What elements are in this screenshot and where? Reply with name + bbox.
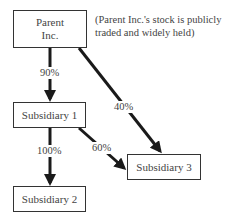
- ownership-note: (Parent Inc.'s stock is publicly traded …: [95, 13, 230, 39]
- node-subsidiary-1: Subsidiary 1: [13, 102, 86, 128]
- edge-label-40: 40%: [113, 101, 134, 113]
- node-parent-line1: Parent: [36, 16, 64, 29]
- edge-parent-sub3: [79, 48, 160, 151]
- edge-label-90: 90%: [39, 67, 60, 79]
- node-subsidiary-3: Subsidiary 3: [127, 154, 201, 180]
- node-parent-line2: Inc.: [36, 29, 64, 42]
- node-subsidiary-2: Subsidiary 2: [13, 186, 86, 212]
- edge-label-60: 60%: [91, 142, 112, 154]
- edge-label-100: 100%: [36, 145, 63, 157]
- node-parent-inc: Parent Inc.: [13, 10, 87, 48]
